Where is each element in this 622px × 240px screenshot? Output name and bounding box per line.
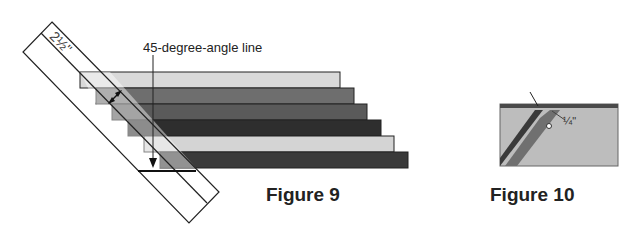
strip-6 [160, 152, 408, 168]
seam-allowance-label: ¼" [563, 115, 576, 127]
figure-9-caption: Figure 9 [266, 184, 340, 206]
figure-10-detail [500, 92, 618, 166]
strip-4 [128, 120, 381, 136]
angle-line-label: 45-degree-angle line [143, 40, 262, 55]
point-marker-icon [547, 124, 552, 129]
figure-10-caption: Figure 10 [490, 184, 574, 206]
top-strip-edge [500, 104, 618, 108]
strip-5 [144, 136, 394, 152]
